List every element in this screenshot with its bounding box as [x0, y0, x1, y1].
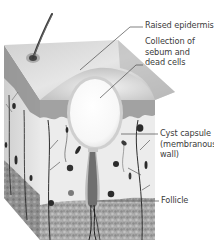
label-collection-of-sebum: Collection of sebum and dead cells — [145, 36, 195, 68]
skin-cyst-diagram: Raised epidermis Collection of sebum and… — [0, 0, 214, 240]
label-follicle: Follicle — [161, 195, 188, 206]
label-raised-epidermis: Raised epidermis — [145, 20, 214, 31]
label-cyst-capsule: Cyst capsule (membranous wall) — [160, 128, 214, 160]
